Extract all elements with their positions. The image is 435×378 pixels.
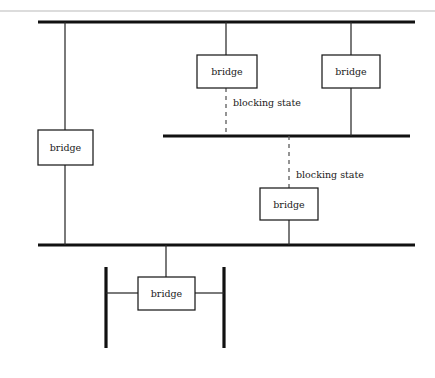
bridge-bottom[interactable]: bridge bbox=[138, 277, 195, 310]
network-topology-diagram: bridge bridge bridge bridge bridge block… bbox=[0, 0, 435, 378]
bridge-top-middle[interactable]: bridge bbox=[197, 55, 257, 88]
bridge-middle-lower-label: bridge bbox=[273, 199, 305, 210]
bridge-left-label: bridge bbox=[50, 142, 82, 153]
bridge-middle-lower[interactable]: bridge bbox=[260, 188, 318, 220]
bridge-top-right[interactable]: bridge bbox=[322, 55, 380, 88]
bridge-top-middle-label: bridge bbox=[211, 66, 243, 77]
blocking-state-label-lower: blocking state bbox=[296, 169, 364, 180]
diagram-svg: bridge bridge bridge bridge bridge block… bbox=[0, 0, 435, 378]
bridge-left[interactable]: bridge bbox=[38, 130, 93, 165]
blocking-state-label-upper: blocking state bbox=[233, 97, 301, 108]
bridge-top-right-label: bridge bbox=[335, 66, 367, 77]
bridge-bottom-label: bridge bbox=[151, 288, 183, 299]
